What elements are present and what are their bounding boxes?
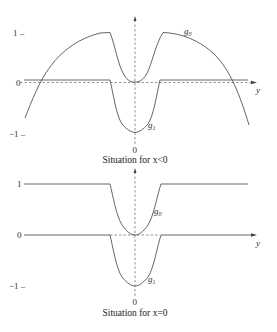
chart-x-negative: 1 – 0 −1 – y 0 g0 g1 Situation for x<0 xyxy=(9,16,260,165)
curve-g0 xyxy=(25,33,249,126)
origin-label: 0 xyxy=(133,297,138,307)
axis-label-y: y xyxy=(255,85,260,95)
curve-g0 xyxy=(24,184,248,235)
label-g1: g1 xyxy=(148,120,156,131)
axis-arrow-up-icon xyxy=(134,168,137,173)
label-g1: g1 xyxy=(148,274,156,285)
tick-label-1: 1 – xyxy=(13,28,25,38)
label-g0: g0 xyxy=(184,26,192,37)
tick-label-1: 1 xyxy=(17,179,22,189)
tick-label-0: 0 xyxy=(16,78,21,88)
figure: 1 – 0 −1 – y 0 g0 g1 Situation for x<0 1… xyxy=(0,0,277,332)
tick-label-0: 0 xyxy=(17,230,22,240)
curve-g1 xyxy=(24,80,248,133)
tick-label-minus-1: −1 – xyxy=(9,129,26,139)
caption-x-zero: Situation for x=0 xyxy=(103,308,168,318)
tick-label-minus-1: −1 – xyxy=(9,281,26,291)
label-g0: g0 xyxy=(154,206,162,217)
axis-label-y: y xyxy=(255,238,260,248)
curve-g1 xyxy=(24,235,252,286)
origin-label: 0 xyxy=(133,145,138,155)
chart-x-zero: 1 0 −1 – y 0 g0 g1 Situation for x=0 xyxy=(9,168,260,318)
caption-x-negative: Situation for x<0 xyxy=(103,155,168,165)
axis-arrow-up-icon xyxy=(134,16,137,21)
axis-arrow-right-icon xyxy=(251,81,257,84)
